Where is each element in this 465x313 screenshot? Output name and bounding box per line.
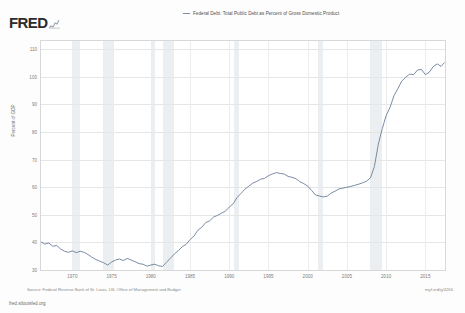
x-tick-label: 1985 bbox=[185, 274, 195, 280]
fred-chart-screenshot: FRED Federal Debt: Total Public Debt as … bbox=[0, 0, 465, 313]
site-url[interactable]: fred.stlouisfed.org bbox=[9, 301, 46, 306]
sparkline-icon bbox=[49, 20, 60, 29]
y-tick-label: 50 bbox=[32, 212, 37, 217]
x-tick-label: 2005 bbox=[342, 274, 352, 280]
fred-wordmark: FRED bbox=[9, 16, 47, 30]
legend-series-label: Federal Debt: Total Public Debt as Perce… bbox=[193, 11, 339, 16]
y-tick-label: 30 bbox=[32, 268, 37, 273]
x-tick-label: 1990 bbox=[224, 274, 234, 280]
x-tick-label: 2000 bbox=[303, 274, 313, 280]
chart-legend: Federal Debt: Total Public Debt as Perce… bbox=[183, 11, 339, 16]
y-axis-title: Percent of GDP bbox=[11, 81, 16, 161]
x-axis-ticks: 1970197519801985199019952000200520102015 bbox=[40, 274, 446, 282]
x-tick-label: 1980 bbox=[146, 274, 156, 280]
series-line-svg bbox=[41, 41, 445, 270]
x-tick-label: 1995 bbox=[263, 274, 273, 280]
y-tick-label: 60 bbox=[32, 185, 37, 190]
y-tick-label: 70 bbox=[32, 157, 37, 162]
legend-color-swatch bbox=[183, 13, 190, 14]
y-axis-ticks: 30405060708090100110 bbox=[22, 40, 37, 271]
y-tick-label: 90 bbox=[32, 102, 37, 107]
fred-logo[interactable]: FRED bbox=[9, 16, 60, 30]
y-tick-label: 40 bbox=[32, 240, 37, 245]
y-tick-label: 110 bbox=[30, 47, 37, 52]
series-line bbox=[41, 63, 444, 267]
plot-inner bbox=[41, 41, 445, 270]
y-tick-label: 100 bbox=[29, 74, 37, 79]
permalink-note: myf.red/g/4266 bbox=[425, 287, 453, 292]
x-tick-label: 1970 bbox=[67, 274, 77, 280]
x-tick-label: 2015 bbox=[420, 274, 430, 280]
x-tick-label: 2010 bbox=[381, 274, 391, 280]
x-tick-label: 1975 bbox=[106, 274, 116, 280]
plot-area[interactable] bbox=[40, 40, 446, 271]
y-tick-label: 80 bbox=[32, 130, 37, 135]
source-note: Source: Federal Reserve Bank of St. Loui… bbox=[27, 287, 181, 292]
